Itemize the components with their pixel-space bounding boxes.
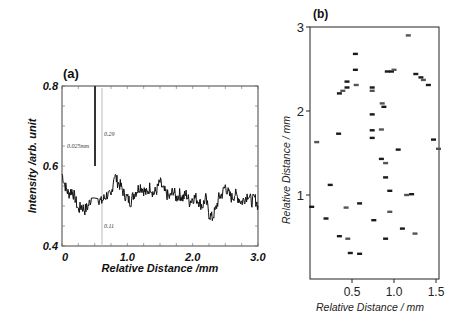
scatter-point (431, 138, 436, 140)
scatter-points (309, 34, 441, 255)
plot-b-y-axis-label: Relative Distance / mm (280, 116, 292, 224)
scatter-point (404, 194, 409, 196)
scatter-point (380, 102, 385, 104)
scatter-point (348, 252, 353, 254)
scatter-point (387, 211, 392, 213)
annotation-0.29: 0.29 (104, 131, 115, 137)
scatter-point (370, 137, 375, 139)
x-tick-label: 1.5 (428, 285, 445, 299)
scatter-point (371, 219, 376, 221)
scatter-point (406, 34, 411, 36)
y-tick-label: 0.8 (43, 80, 59, 92)
scatter-point (379, 128, 384, 130)
scatter-point (336, 133, 341, 135)
scatter-point (357, 253, 362, 255)
plot-a-frame (62, 86, 258, 246)
x-tick-label: 0.5 (344, 285, 361, 299)
scatter-point (370, 90, 375, 92)
scatter-point (353, 53, 358, 55)
scatter-point (383, 238, 388, 240)
scatter-point (337, 92, 342, 94)
annotation-0.11: 0.11 (104, 223, 114, 229)
plot-a-y-tick-labels: 0.40.60.8 (43, 80, 59, 252)
scatter-point (344, 206, 349, 208)
scatter-point (383, 162, 388, 164)
panel-b-scatter-plot: (b) 123 0.51.01.5 Relative Distance / mm… (280, 7, 445, 313)
scatter-point (345, 80, 350, 82)
scatter-point (436, 148, 441, 150)
scatter-point (314, 141, 319, 143)
scatter-point (379, 158, 384, 160)
plot-a-ticks (62, 86, 258, 246)
scatter-point (396, 148, 401, 150)
x-tick-label: 1.0 (386, 285, 403, 299)
scatter-point (345, 86, 350, 88)
scatter-point (370, 86, 375, 88)
scatter-point (392, 69, 397, 71)
plot-b-y-tick-labels: 123 (297, 20, 304, 203)
figure: (a) 0.40.60.8 01.02.03.0 0.025mm 0.29 0.… (0, 0, 462, 325)
scatter-point (354, 84, 359, 86)
scatter-point (340, 90, 345, 92)
scatter-point (370, 113, 375, 115)
y-tick-label: 1 (297, 188, 304, 203)
scatter-point (357, 202, 362, 204)
y-tick-label: 0.6 (43, 160, 59, 172)
scatter-point (387, 190, 392, 192)
panel-a-tag: (a) (63, 66, 79, 81)
plot-a-y-axis-label: Intensity /arb. unit (26, 117, 38, 213)
scatter-point (345, 238, 350, 240)
y-tick-label: 0.4 (43, 240, 58, 252)
scatter-point (370, 129, 375, 131)
scatter-point (426, 84, 431, 86)
plot-b-ticks (306, 27, 436, 283)
scatter-point (413, 232, 418, 234)
y-tick-label: 3 (297, 20, 304, 35)
scatter-point (413, 73, 418, 75)
plot-a-x-axis-label: Relative Distance /mm (102, 262, 219, 274)
panel-a-intensity-plot: (a) 0.40.60.8 01.02.03.0 0.025mm 0.29 0.… (26, 66, 267, 274)
plot-b-frame (310, 27, 439, 279)
scatter-point (418, 76, 423, 78)
scatter-point (328, 184, 333, 186)
scatter-point (324, 217, 329, 219)
annotation-width: 0.025mm (67, 143, 90, 149)
panel-b-tag: (b) (313, 7, 328, 21)
scatter-point (309, 206, 314, 208)
scatter-point (353, 69, 358, 71)
scatter-point (381, 106, 386, 108)
plot-b-x-tick-labels: 0.51.01.5 (344, 285, 445, 299)
scatter-point (400, 227, 405, 229)
scatter-point (421, 79, 426, 81)
scatter-point (383, 176, 388, 178)
scatter-point (409, 193, 414, 195)
x-tick-label: 3.0 (250, 251, 266, 263)
intensity-profile-line (62, 174, 258, 221)
plot-b-x-axis-label: Relative Distance / mm (316, 301, 424, 313)
scatter-point (337, 235, 342, 237)
x-tick-label: 0 (62, 251, 69, 263)
y-tick-label: 2 (297, 104, 304, 119)
